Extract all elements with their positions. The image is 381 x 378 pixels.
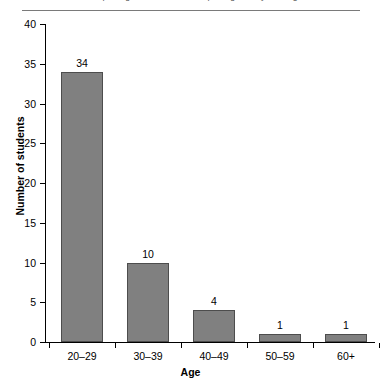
x-axis-line bbox=[45, 342, 375, 343]
bar-value-label: 1 bbox=[260, 320, 300, 331]
bar-value-label: 1 bbox=[326, 320, 366, 331]
y-tick-label: 40 bbox=[0, 19, 36, 29]
x-category-label: 20–29 bbox=[49, 350, 115, 362]
y-tick bbox=[40, 104, 45, 105]
bar bbox=[325, 334, 367, 342]
bar-value-label: 34 bbox=[62, 58, 102, 69]
y-tick bbox=[40, 24, 45, 25]
x-tick bbox=[247, 343, 248, 348]
x-tick bbox=[49, 343, 50, 348]
y-tick bbox=[40, 183, 45, 184]
x-axis-title: Age bbox=[0, 366, 381, 378]
bar bbox=[61, 72, 103, 342]
y-axis-line bbox=[45, 24, 46, 343]
y-tick-label: 10 bbox=[0, 258, 36, 268]
y-tick bbox=[40, 263, 45, 264]
x-category-label: 40–49 bbox=[181, 350, 247, 362]
bar bbox=[259, 334, 301, 342]
y-tick-label: 0 bbox=[0, 337, 36, 347]
y-axis-title: Number of students bbox=[14, 86, 26, 246]
x-category-label: 50–59 bbox=[247, 350, 313, 362]
bar-value-label: 10 bbox=[128, 249, 168, 260]
bar bbox=[193, 310, 235, 342]
x-tick bbox=[379, 343, 380, 348]
x-category-label: 60+ bbox=[313, 350, 379, 362]
x-category-label: 30–39 bbox=[115, 350, 181, 362]
y-tick bbox=[40, 64, 45, 65]
bar bbox=[127, 263, 169, 343]
y-tick bbox=[40, 223, 45, 224]
y-tick-label: 5 bbox=[0, 297, 36, 307]
y-tick bbox=[40, 302, 45, 303]
bar-value-label: 4 bbox=[194, 296, 234, 307]
x-tick bbox=[181, 343, 182, 348]
y-tick bbox=[40, 342, 45, 343]
y-tick-label: 35 bbox=[0, 59, 36, 69]
y-tick bbox=[40, 143, 45, 144]
x-tick bbox=[115, 343, 116, 348]
x-tick bbox=[313, 343, 314, 348]
